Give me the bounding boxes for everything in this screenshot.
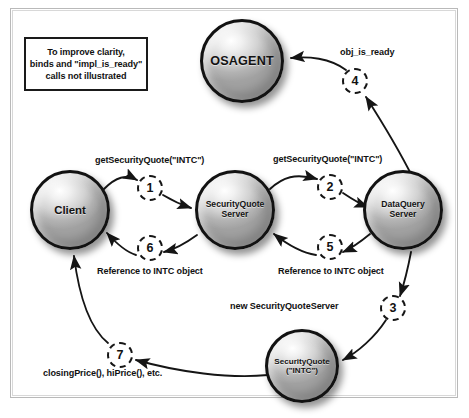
step-badge-1[interactable]: 1 [137, 175, 163, 201]
caption-step-3: new SecurityQuoteServer [230, 301, 338, 311]
arrow-step-3b [343, 320, 386, 360]
node-dataquery-server-line-1: DataQuery [381, 199, 424, 209]
node-securityquote-server-line-2: Server [222, 209, 249, 219]
arrow-step-4 [366, 97, 413, 178]
node-securityquote-intc[interactable]: SecurityQuote ("INTC") [265, 329, 339, 403]
caption-step-4: obj_is_ready [340, 47, 394, 57]
arrow-step-2 [270, 176, 317, 189]
node-client[interactable]: Client [30, 170, 110, 250]
node-dataquery-server-label: DataQuery Server [381, 200, 424, 219]
node-securityquote-intc-label: SecurityQuote ("INTC") [274, 357, 329, 375]
step-badge-5[interactable]: 5 [317, 234, 343, 260]
node-dataquery-server[interactable]: DataQuery Server [363, 170, 443, 250]
step-badge-4[interactable]: 4 [342, 68, 368, 94]
arrow-step-5 [343, 234, 370, 252]
node-dataquery-server-line-2: Server [390, 209, 417, 219]
step-badge-6[interactable]: 6 [137, 235, 163, 261]
step-badge-3[interactable]: 3 [380, 295, 406, 321]
arrow-step-1 [104, 177, 137, 189]
caption-step-6: Reference to INTC object [97, 266, 203, 276]
node-securityquote-server-label: SecurityQuote Server [206, 200, 265, 219]
step-badge-7[interactable]: 7 [107, 342, 133, 368]
caption-step-2: getSecurityQuote("INTC") [273, 154, 382, 164]
arrow-step-1b [163, 195, 191, 208]
caption-step-1: getSecurityQuote("INTC") [95, 155, 204, 165]
node-securityquote-intc-line-2: ("INTC") [286, 366, 318, 375]
arrow-step-3 [400, 252, 411, 296]
diagram-canvas: To improve clarity, binds and "impl_is_r… [0, 0, 469, 418]
arrow-step-6 [164, 235, 197, 252]
arrow-step-6b [107, 233, 136, 255]
caption-step-5: Reference to INTC object [278, 266, 384, 276]
node-client-label: Client [54, 204, 86, 217]
node-osagent[interactable]: OSAGENT [200, 19, 284, 103]
step-badge-2[interactable]: 2 [317, 174, 343, 200]
node-osagent-label: OSAGENT [210, 54, 274, 68]
node-securityquote-server-line-1: SecurityQuote [206, 199, 265, 209]
caption-step-7: closingPrice(), hiPrice(), etc. [43, 368, 162, 378]
arrow-step-5b [274, 234, 316, 255]
arrow-step-4b [291, 57, 346, 70]
node-securityquote-server[interactable]: SecurityQuote Server [195, 170, 275, 250]
node-securityquote-intc-line-1: SecurityQuote [274, 357, 329, 366]
